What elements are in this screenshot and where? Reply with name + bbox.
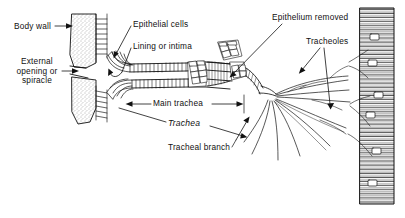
epithelium-removed-segment	[207, 62, 230, 86]
label-tracheal-branch: Tracheal branch	[168, 143, 230, 153]
muscle-fiber-column	[348, 8, 394, 204]
label-epithelium-removed: Epithelium removed	[272, 13, 348, 23]
label-epithelial-cells: Epithelial cells	[133, 20, 188, 30]
label-main-trachea: Main trachea	[153, 99, 203, 109]
body-wall-structure	[70, 14, 107, 124]
label-tracheoles: Tracheoles	[306, 37, 348, 47]
label-trachea: Trachea	[168, 119, 200, 129]
figure-root: Body wall External opening or spiracle E…	[0, 0, 405, 218]
label-body-wall: Body wall	[14, 22, 51, 32]
tracheal-branch-tube	[246, 68, 276, 96]
main-trachea-tube	[130, 62, 232, 89]
atrium-epithelium-lower	[107, 79, 133, 99]
tracheal-system-diagram	[0, 0, 405, 218]
label-lining-or-intima: Lining or intima	[133, 42, 192, 52]
tracheoles-network	[244, 66, 350, 160]
label-external-opening-or-spiracle: External opening or spiracle	[6, 57, 68, 86]
